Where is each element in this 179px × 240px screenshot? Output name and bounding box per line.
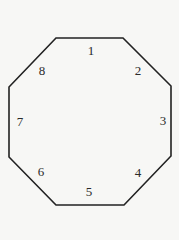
side-label-2: 2 [135,64,142,77]
side-label-5: 5 [86,185,93,198]
side-label-1: 1 [88,44,95,57]
side-label-4: 4 [135,166,142,179]
side-label-8: 8 [39,64,46,77]
side-label-3: 3 [160,114,167,127]
side-label-7: 7 [17,115,24,128]
side-label-6: 6 [38,165,45,178]
octagon-outline [9,38,171,205]
